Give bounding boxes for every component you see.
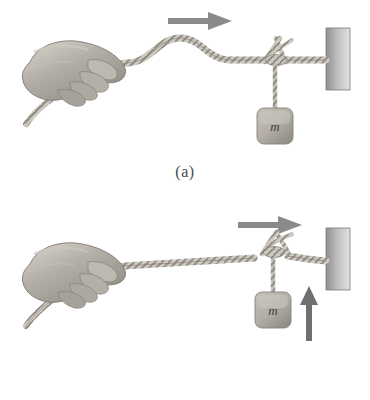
- panel-a-caption: (a): [0, 163, 370, 181]
- hand-gripping-rope: [22, 41, 125, 106]
- knot: [264, 38, 292, 108]
- mass-block-label: m: [268, 303, 277, 318]
- knot: [262, 232, 292, 292]
- wall: [326, 228, 350, 290]
- panel-b-illustration: m: [0, 200, 370, 400]
- mass-acceleration-arrow: [300, 286, 318, 341]
- pulse-direction-arrow: [168, 12, 232, 30]
- panel-b: m (b): [0, 200, 370, 400]
- mass-block: m: [257, 108, 293, 144]
- pulse-direction-arrow: [238, 216, 302, 234]
- hand-gripping-rope: [22, 243, 125, 308]
- mass-block-label: m: [270, 119, 279, 134]
- wall: [326, 28, 350, 90]
- panel-a: m (a): [0, 0, 370, 200]
- mass-block: m: [255, 292, 291, 328]
- physics-figure-wave-pulse-on-rope: m (a): [0, 0, 370, 400]
